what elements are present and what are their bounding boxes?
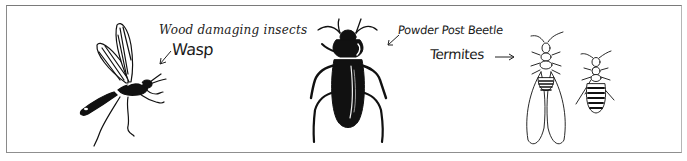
beetle-arrow-icon <box>388 35 399 45</box>
worker-termite-icon <box>576 51 614 113</box>
termites-arrow-icon <box>495 54 514 60</box>
winged-termite-icon <box>527 32 565 144</box>
insect-illustrations <box>0 0 687 161</box>
wasp-icon <box>80 24 166 146</box>
beetle-icon <box>311 19 386 142</box>
wasp-arrow-icon <box>160 51 171 64</box>
